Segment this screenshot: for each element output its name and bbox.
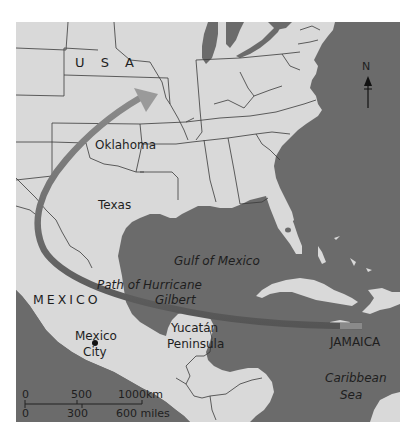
label-gulf-of-mexico: Gulf of Mexico bbox=[174, 255, 260, 267]
scale-mi-600: 600 miles bbox=[116, 408, 170, 419]
map-frame: U S A Oklahoma Texas Gulf of Mexico Path… bbox=[16, 22, 400, 422]
scale-km-0: 0 bbox=[22, 389, 29, 400]
label-yucatan-line2: Peninsula bbox=[167, 338, 224, 350]
map-canvas bbox=[16, 22, 400, 422]
label-mexico-city-line1: Mexico bbox=[75, 330, 117, 342]
scale-mi-0: 0 bbox=[22, 408, 29, 419]
lake-okeechobee bbox=[285, 228, 291, 233]
label-usa: U S A bbox=[75, 56, 140, 69]
label-yucatan-line1: Yucatán bbox=[171, 322, 218, 334]
label-jamaica: JAMAICA bbox=[330, 336, 380, 348]
label-mexico: MEXICO bbox=[33, 294, 101, 307]
label-texas: Texas bbox=[98, 199, 131, 211]
north-arrow-label: N bbox=[362, 61, 370, 72]
label-mexico-city-line2: City bbox=[83, 346, 107, 358]
label-caribbean-line1: Caribbean bbox=[325, 372, 387, 384]
label-oklahoma: Oklahoma bbox=[95, 139, 156, 151]
label-gilbert: Gilbert bbox=[155, 294, 196, 306]
label-caribbean-line2: Sea bbox=[340, 389, 362, 401]
scale-mi-300: 300 bbox=[67, 408, 88, 419]
scale-km-1000: 1000km bbox=[118, 389, 163, 400]
scale-km-500: 500 bbox=[71, 389, 92, 400]
label-path-of-hurricane: Path of Hurricane bbox=[97, 279, 202, 291]
